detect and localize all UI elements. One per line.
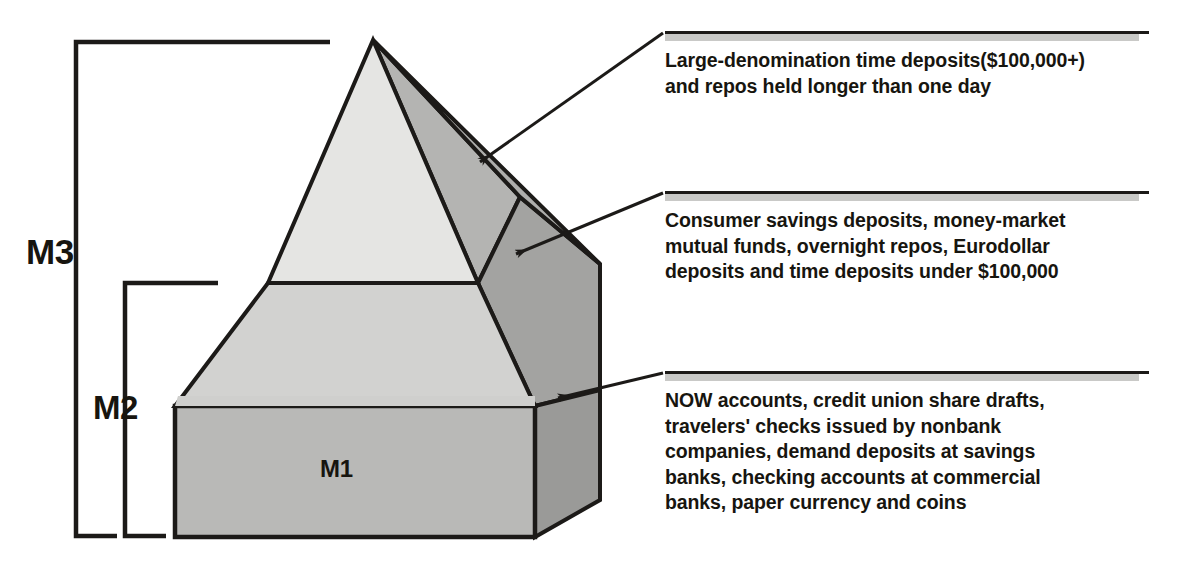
bracket-label-m2: M2 xyxy=(93,389,138,427)
callout-band xyxy=(665,194,1139,201)
callout-text: Consumer savings deposits, money-market … xyxy=(665,208,1149,285)
pyramid-front-face-middle xyxy=(175,283,535,406)
callout-text: NOW accounts, credit union share drafts,… xyxy=(665,388,1149,516)
callout-consumer-savings: Consumer savings deposits, money-market … xyxy=(665,191,1149,285)
callout-large-denomination: Large-denomination time deposits($100,00… xyxy=(665,31,1149,99)
pyramid-front-face-base xyxy=(175,406,535,537)
diagram-canvas: M3 M2 M1 Large-denomination time deposit… xyxy=(0,0,1195,569)
callout-text: Large-denomination time deposits($100,00… xyxy=(665,48,1149,99)
callout-band xyxy=(665,34,1139,41)
leader-line-1 xyxy=(480,33,663,162)
pyramid-base-top-bevel xyxy=(175,396,535,406)
callout-now-accounts: NOW accounts, credit union share drafts,… xyxy=(665,371,1149,516)
pyramid-body xyxy=(175,40,600,537)
bracket-label-m3: M3 xyxy=(26,232,74,272)
pyramid-right-face-base xyxy=(535,390,600,537)
callout-band xyxy=(665,374,1139,381)
pyramid-base-label-m1: M1 xyxy=(320,455,353,483)
